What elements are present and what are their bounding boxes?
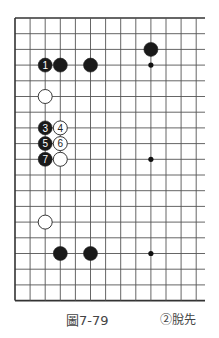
black-stone: 5 [38,137,52,151]
figure-label: 圖7-79 [66,310,109,329]
black-stone [53,58,67,72]
black-stone [144,42,158,56]
black-stone: 1 [38,58,52,72]
white-stone: 4 [53,121,67,135]
move-number: 3 [42,123,48,134]
move-number: 5 [42,138,48,149]
black-stone [84,58,98,72]
black-stone [53,247,67,261]
go-board: 134567 [0,0,219,305]
black-stone [84,247,98,261]
move-number: 1 [42,60,48,71]
stones: 134567 [38,42,158,260]
star-point-icon [148,157,153,162]
star-point-icon [148,63,153,68]
figure-note: ②脫先 [160,310,196,327]
white-stone: 6 [53,137,67,151]
move-number: 4 [58,123,64,134]
white-stone [38,90,52,104]
white-stone [38,215,52,229]
star-point-icon [148,251,153,256]
move-number: 6 [58,138,64,149]
black-stone: 3 [38,121,52,135]
move-number: 7 [42,154,48,165]
white-stone [53,152,67,166]
black-stone: 7 [38,152,52,166]
